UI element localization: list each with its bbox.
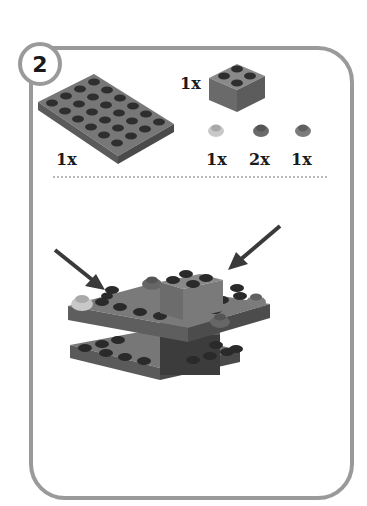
divider (53, 176, 327, 178)
round-plate-transparent-icon (207, 122, 225, 138)
part-quantity: 1x (180, 74, 201, 93)
round-plate-icon (294, 122, 312, 138)
part-quantity: 1x (206, 150, 227, 169)
part-quantity: 2x (249, 150, 270, 169)
part-quantity: 1x (56, 150, 77, 169)
assembly-model-icon (40, 210, 340, 400)
round-plate-icon (252, 122, 270, 138)
part-quantity: 1x (291, 150, 312, 169)
brick-2x2-icon (207, 60, 267, 114)
